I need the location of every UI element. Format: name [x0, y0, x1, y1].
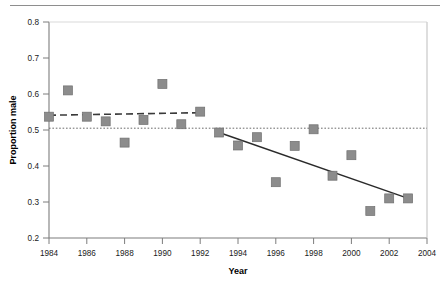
data-point-marker	[290, 141, 299, 150]
data-point-marker	[309, 125, 318, 134]
data-point-marker	[139, 115, 148, 124]
y-axis-title: Proportion male	[8, 95, 18, 164]
x-tick-label: 2004	[418, 249, 437, 258]
data-point-marker	[234, 141, 243, 150]
y-tick-label: 0.8	[28, 18, 40, 27]
x-tick-label: 1996	[267, 249, 286, 258]
y-tick-label: 0.2	[28, 234, 40, 243]
x-tick-label: 2000	[342, 249, 361, 258]
chart-canvas: 0.20.30.40.50.60.70.8 198419861988199019…	[0, 0, 448, 284]
data-point-marker	[215, 128, 224, 137]
data-point-marker	[158, 79, 167, 88]
x-tick-label: 1992	[191, 249, 210, 258]
plot-frame	[49, 22, 427, 238]
y-tick-label: 0.5	[28, 126, 40, 135]
y-tick-label: 0.6	[28, 90, 40, 99]
x-axis-title: Year	[228, 266, 248, 276]
x-tick-label: 1990	[153, 249, 172, 258]
data-point-marker	[328, 171, 337, 180]
figure-container: 0.20.30.40.50.60.70.8 198419861988199019…	[0, 0, 448, 284]
x-axis-ticks: 1984198619881990199219941996199820002002…	[40, 238, 437, 258]
data-point-marker	[404, 194, 413, 203]
data-point-marker	[252, 133, 261, 142]
x-tick-label: 2002	[380, 249, 399, 258]
data-point-marker	[101, 117, 110, 126]
data-point-marker	[177, 120, 186, 129]
x-tick-label: 1988	[115, 249, 134, 258]
x-tick-label: 1986	[78, 249, 97, 258]
data-point-group	[45, 79, 413, 215]
x-tick-label: 1998	[304, 249, 323, 258]
data-point-marker	[271, 178, 280, 187]
data-point-marker	[196, 107, 205, 116]
data-point-marker	[120, 138, 129, 147]
y-tick-label: 0.3	[28, 198, 40, 207]
data-point-marker	[45, 112, 54, 121]
y-tick-label: 0.7	[28, 54, 40, 63]
late-period-trend	[219, 133, 408, 199]
x-tick-label: 1984	[40, 249, 59, 258]
y-axis-ticks: 0.20.30.40.50.60.70.8	[28, 18, 49, 243]
early-period-trend	[49, 113, 200, 116]
data-point-marker	[385, 194, 394, 203]
data-point-marker	[347, 151, 356, 160]
data-point-marker	[82, 112, 91, 121]
y-tick-label: 0.4	[28, 162, 40, 171]
data-point-marker	[366, 207, 375, 216]
data-point-marker	[63, 86, 72, 95]
x-tick-label: 1994	[229, 249, 248, 258]
